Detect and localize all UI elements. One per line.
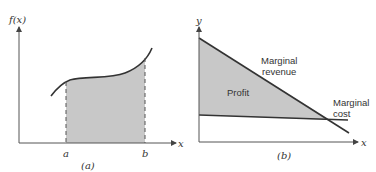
x-axis-label: x: [178, 138, 184, 149]
bound-a-label: a: [63, 148, 69, 159]
panel-b: y x Profit Marginal revenue Marginal cos…: [195, 15, 369, 161]
y-axis-label: y: [195, 15, 202, 26]
cost-label-line1: Marginal: [333, 97, 369, 108]
bound-b-label: b: [142, 148, 148, 159]
shaded-area: [66, 58, 145, 143]
revenue-label-line2: revenue: [262, 66, 296, 77]
cost-label-line2: cost: [333, 108, 351, 119]
revenue-label-line1: Marginal: [261, 55, 297, 66]
x-axis-label: x: [361, 137, 367, 148]
panel-a: f(x) x a b (a): [8, 14, 184, 171]
profit-label: Profit: [227, 87, 250, 98]
caption-a: (a): [81, 160, 95, 171]
y-axis-label: f(x): [8, 14, 26, 25]
figure: f(x) x a b (a) y x Profit Marginal reven…: [0, 0, 376, 172]
caption-b: (b): [277, 150, 291, 161]
